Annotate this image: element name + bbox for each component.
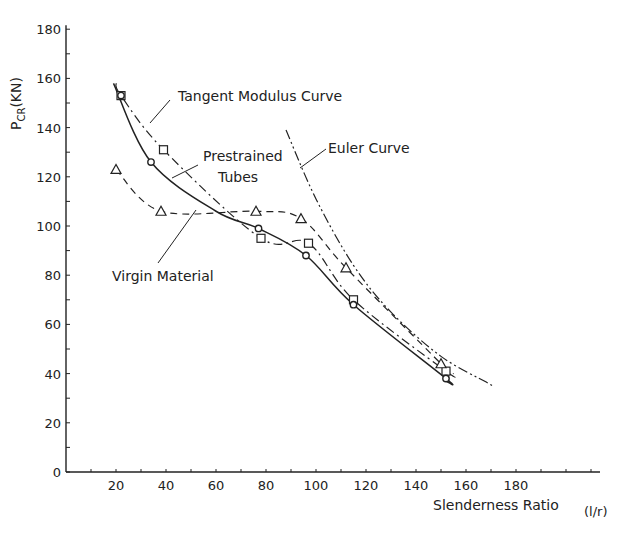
x-tick-label: 160 bbox=[454, 478, 479, 493]
curves bbox=[114, 83, 493, 386]
y-axis-label: PCR(KN) bbox=[8, 77, 27, 130]
annotation-leader bbox=[172, 165, 198, 178]
annotation-virgin-material: Virgin Material bbox=[112, 268, 214, 284]
x-tick-label: 60 bbox=[208, 478, 225, 493]
y-tick-label: 120 bbox=[36, 170, 61, 185]
y-label-sub: CR bbox=[16, 108, 27, 122]
annotation-prestrained-line1: Prestrained bbox=[203, 148, 283, 164]
x-tick-label: 180 bbox=[504, 478, 529, 493]
marker-square bbox=[305, 239, 313, 247]
curve-virgin-material bbox=[116, 169, 441, 363]
markers bbox=[111, 92, 450, 382]
y-label-unit: (KN) bbox=[8, 77, 24, 108]
curve-prestrained-tubes bbox=[114, 83, 453, 384]
chart-canvas: 0204060801001201401601802040608010012014… bbox=[0, 0, 633, 534]
y-tick-label: 160 bbox=[36, 71, 61, 86]
y-tick-label: 60 bbox=[44, 317, 61, 332]
annotation-prestrained-line2: Tubes bbox=[217, 169, 258, 185]
x-tick-label: 120 bbox=[354, 478, 379, 493]
y-tick-label: 80 bbox=[44, 268, 61, 283]
marker-square bbox=[257, 234, 265, 242]
annotation-leader bbox=[300, 149, 326, 168]
marker-square bbox=[160, 146, 168, 154]
marker-triangle bbox=[111, 164, 121, 173]
annotations: Tangent Modulus Curve Prestrained Tubes … bbox=[112, 88, 410, 284]
x-axis-unit: (l/r) bbox=[584, 504, 607, 519]
marker-circle bbox=[148, 159, 154, 165]
y-label-main: P bbox=[8, 122, 24, 130]
annotation-tangent-modulus: Tangent Modulus Curve bbox=[177, 88, 342, 104]
marker-circle bbox=[118, 92, 124, 98]
y-tick-label: 20 bbox=[44, 416, 61, 431]
y-tick-label: 100 bbox=[36, 219, 61, 234]
annotation-leader bbox=[158, 210, 196, 263]
marker-triangle bbox=[156, 206, 166, 215]
annotation-leader bbox=[150, 100, 170, 123]
curve-tangent-modulus-curve bbox=[116, 83, 456, 377]
x-tick-label: 80 bbox=[258, 478, 275, 493]
marker-triangle bbox=[296, 214, 306, 223]
curve-euler-curve bbox=[286, 130, 493, 386]
marker-circle bbox=[255, 225, 261, 231]
annotation-euler: Euler Curve bbox=[328, 140, 410, 156]
y-tick-label: 180 bbox=[36, 22, 61, 37]
marker-circle bbox=[443, 375, 449, 381]
x-tick-label: 40 bbox=[158, 478, 175, 493]
x-axis-label: Slenderness Ratio bbox=[433, 497, 559, 513]
y-tick-label: 0 bbox=[53, 465, 61, 480]
y-tick-label: 40 bbox=[44, 367, 61, 382]
x-tick-label: 140 bbox=[404, 478, 429, 493]
marker-circle bbox=[303, 252, 309, 258]
x-tick-label: 100 bbox=[304, 478, 329, 493]
marker-triangle bbox=[251, 206, 261, 215]
marker-circle bbox=[350, 302, 356, 308]
y-tick-label: 140 bbox=[36, 121, 61, 136]
x-tick-label: 20 bbox=[108, 478, 125, 493]
